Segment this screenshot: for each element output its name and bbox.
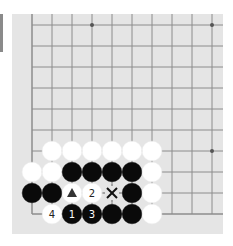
white-stone[interactable] xyxy=(42,141,62,161)
white-stone[interactable] xyxy=(142,183,162,203)
white-stone[interactable] xyxy=(22,162,42,182)
white-stone[interactable] xyxy=(142,204,162,224)
star-point xyxy=(210,149,214,153)
move-number-label: 4 xyxy=(49,209,55,220)
star-point xyxy=(90,23,94,27)
black-stone[interactable] xyxy=(102,204,122,224)
white-stone[interactable] xyxy=(142,162,162,182)
white-stone[interactable] xyxy=(82,141,102,161)
black-stone[interactable] xyxy=(22,183,42,203)
black-stone[interactable] xyxy=(82,162,102,182)
white-stone[interactable] xyxy=(102,141,122,161)
black-stone[interactable] xyxy=(62,162,82,182)
star-point xyxy=(210,23,214,27)
go-board-grid[interactable]: 2413 xyxy=(0,0,233,246)
white-stone[interactable] xyxy=(142,141,162,161)
white-stone[interactable] xyxy=(62,141,82,161)
black-stone[interactable] xyxy=(122,204,142,224)
move-number-label: 1 xyxy=(69,209,75,220)
move-number-label: 3 xyxy=(89,209,95,220)
white-stone[interactable] xyxy=(42,162,62,182)
move-number-label: 2 xyxy=(89,188,95,199)
black-stone[interactable] xyxy=(122,183,142,203)
black-stone[interactable] xyxy=(42,183,62,203)
black-stone[interactable] xyxy=(122,162,142,182)
white-stone[interactable] xyxy=(122,141,142,161)
black-stone[interactable] xyxy=(102,162,122,182)
